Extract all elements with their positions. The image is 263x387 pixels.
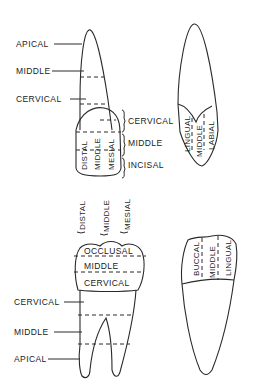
molar-side-label-buccal: BUCCAL (192, 241, 201, 276)
incisor-label-apical: APICAL (16, 39, 49, 49)
tooth-thirds-diagram: APICAL MIDDLE CERVICAL DISTAL MIDDLE MES… (0, 0, 263, 387)
molar-side-label-lingual: LINGUAL (224, 239, 233, 276)
molar-top-label-mesial: MESIAL (123, 199, 132, 230)
incisor-label-middle: MIDDLE (16, 66, 51, 76)
molar-top-label-distal: DISTAL (78, 201, 87, 230)
incisor-crown-label-mesial: MESIAL (107, 139, 116, 170)
molar-crown-label-occlusal: OCCLUSAL (84, 246, 133, 256)
incisor-side-label-lingual: LINGUAL (183, 115, 192, 152)
incisor-side-label-middle: MIDDLE (128, 138, 163, 148)
incisor-side-label-cervical: CERVICAL (128, 116, 174, 126)
incisor-crown-label-distal: DISTAL (80, 141, 89, 170)
molar-side-label-middle: MIDDLE (208, 246, 217, 278)
incisor-side-view: LINGUAL MIDDLE LABIAL (178, 24, 218, 166)
incisor-crown-label-middle: MIDDLE (93, 138, 102, 170)
molar-crown-label-middle: MIDDLE (84, 261, 119, 271)
incisor-root-outline (80, 30, 112, 130)
molar-root-label-apical: APICAL (14, 354, 47, 364)
molar-front-view: DISTAL MIDDLE MESIAL OCCLUSAL MIDDLE CER… (14, 199, 146, 378)
molar-side-view: BUCCAL MIDDLE LINGUAL (181, 235, 236, 374)
incisor-side-label-middle: MIDDLE (195, 125, 204, 157)
molar-crown-label-cervical: CERVICAL (84, 278, 130, 288)
incisor-front-view: APICAL MIDDLE CERVICAL DISTAL MIDDLE MES… (16, 30, 174, 178)
incisor-label-cervical: CERVICAL (16, 94, 62, 104)
molar-root-label-cervical: CERVICAL (14, 297, 60, 307)
incisor-side-label-labial: LABIAL (207, 121, 216, 150)
incisor-side-label-incisal: INCISAL (128, 160, 164, 170)
molar-root-label-middle: MIDDLE (14, 327, 49, 337)
molar-root-outline (79, 290, 136, 378)
molar-top-label-middle: MIDDLE (102, 200, 111, 232)
